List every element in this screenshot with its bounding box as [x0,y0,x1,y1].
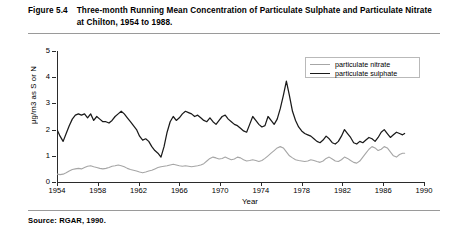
x-tick-label: 1982 [327,187,357,195]
legend-label-sulphate: particulate sulphate [335,70,397,78]
x-axis-title-label: Year [242,197,258,206]
legend-item-particulate-sulphate: particulate sulphate [310,69,397,78]
x-tick-label: 1962 [124,187,154,195]
y-tick-mark [52,182,56,183]
y-tick-label: 5 [36,47,50,55]
x-axis-line [57,182,424,183]
x-tick-label: 1954 [42,187,72,195]
legend-swatch-nitrate-icon [310,64,330,65]
figure-number: Figure 5.4 [28,5,68,17]
y-tick-mark [52,130,56,131]
series-line-particulate-sulphate [57,81,405,157]
x-axis-title: Year [0,197,464,206]
x-tick-label: 1966 [164,187,194,195]
chart-legend: particulate nitrate particulate sulphate [305,57,420,78]
source-note: Source: RGAR, 1990. [28,216,106,225]
y-axis-title: µg/m3 as S or N [29,66,39,176]
series-line-particulate-nitrate [57,147,405,175]
figure-container: Figure 5.4 Three-month Running Mean Conc… [0,0,464,237]
x-tick-label: 1970 [205,187,235,195]
y-tick-mark [52,156,56,157]
footer-divider [28,210,440,211]
figure-header: Figure 5.4 Three-month Running Mean Conc… [28,5,440,28]
y-tick-label: 1 [36,152,50,160]
legend-item-particulate-nitrate: particulate nitrate [310,60,390,69]
y-tick-mark [52,77,56,78]
y-tick-mark [52,103,56,104]
y-tick-mark [52,51,56,52]
header-divider [28,33,440,34]
x-tick-label: 1958 [83,187,113,195]
x-tick-label: 1986 [368,187,398,195]
x-tick-label: 1978 [287,187,317,195]
x-tick-label: 1974 [246,187,276,195]
x-tick-label: 1990 [409,187,439,195]
y-tick-label: 3 [36,99,50,107]
legend-label-nitrate: particulate nitrate [335,61,390,69]
y-tick-label: 0 [36,178,50,186]
legend-swatch-sulphate-icon [310,73,330,74]
figure-title: Three-month Running Mean Concentration o… [77,5,440,28]
y-tick-label: 2 [36,126,50,134]
y-tick-label: 4 [36,73,50,81]
